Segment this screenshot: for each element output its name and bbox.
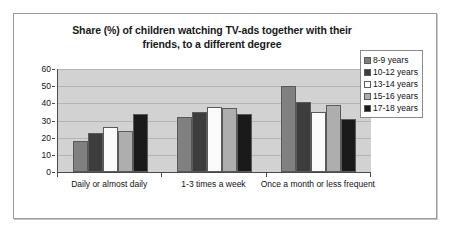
chart-title: Share (%) of children watching TV-ads to…: [28, 23, 396, 51]
bar[interactable]: [133, 114, 148, 172]
y-tick-mark-30: [52, 121, 55, 122]
x-tick-1: [161, 173, 162, 177]
bar-group-1: [58, 69, 162, 172]
legend-label: 13-14 years: [373, 79, 418, 89]
chart-title-line-1: Share (%) of children watching TV-ads to…: [28, 23, 396, 37]
bar[interactable]: [192, 112, 207, 172]
y-tick-mark-40: [52, 103, 55, 104]
bar-group-3: [267, 69, 371, 172]
y-axis: 0102030405060: [32, 69, 54, 172]
legend-item-15-16-years[interactable]: 15-16 years: [364, 90, 418, 102]
legend-label: 10-12 years: [373, 67, 418, 77]
legend-label: 17-18 years: [373, 103, 418, 113]
legend-swatch-icon: [364, 81, 371, 88]
bar[interactable]: [311, 112, 326, 172]
bar[interactable]: [237, 114, 252, 172]
x-tick-2: [266, 173, 267, 177]
bar[interactable]: [326, 105, 341, 172]
y-tick-mark-0: [52, 172, 55, 173]
bar[interactable]: [177, 117, 192, 172]
y-tick-label-50: 50: [42, 81, 51, 91]
x-tick-3: [370, 173, 371, 177]
y-tick-label-20: 20: [42, 133, 51, 143]
legend-item-13-14-years[interactable]: 13-14 years: [364, 78, 418, 90]
plot-area: [57, 69, 371, 173]
y-tick-label-0: 0: [46, 167, 51, 177]
legend-swatch-icon: [364, 105, 371, 112]
legend-label: 8-9 years: [373, 55, 408, 65]
x-category-label-2: 1-3 times a week: [153, 179, 273, 190]
chart-legend: 8-9 years10-12 years13-14 years15-16 yea…: [360, 50, 423, 118]
y-tick-label-30: 30: [42, 116, 51, 126]
legend-swatch-icon: [364, 69, 371, 76]
y-tick-mark-20: [52, 138, 55, 139]
bar[interactable]: [296, 102, 311, 172]
bar-group-2: [162, 69, 266, 172]
legend-item-17-18-years[interactable]: 17-18 years: [364, 102, 418, 114]
bar[interactable]: [103, 127, 118, 172]
y-tick-label-60: 60: [42, 64, 51, 74]
y-tick-mark-10: [52, 155, 55, 156]
bar[interactable]: [88, 133, 103, 172]
legend-label: 15-16 years: [373, 91, 418, 101]
x-tick-0: [57, 173, 58, 177]
bar[interactable]: [207, 107, 222, 172]
legend-item-10-12-years[interactable]: 10-12 years: [364, 66, 418, 78]
legend-item-8-9-years[interactable]: 8-9 years: [364, 54, 418, 66]
y-tick-label-10: 10: [42, 150, 51, 160]
bar[interactable]: [341, 119, 356, 172]
x-category-label-1: Daily or almost daily: [49, 179, 169, 190]
bar[interactable]: [73, 141, 88, 172]
x-category-label-3: Once a month or less frequent: [258, 179, 378, 190]
legend-swatch-icon: [364, 57, 371, 64]
y-tick-mark-50: [52, 86, 55, 87]
legend-swatch-icon: [364, 93, 371, 100]
bar[interactable]: [118, 131, 133, 172]
figure-frame: Share (%) of children watching TV-ads to…: [13, 13, 437, 219]
bars-layer: [58, 69, 371, 172]
bar[interactable]: [222, 108, 237, 172]
y-tick-label-40: 40: [42, 98, 51, 108]
chart-title-line-2: friends, to a different degree: [28, 37, 396, 51]
bar[interactable]: [281, 86, 296, 172]
y-tick-mark-60: [52, 69, 55, 70]
